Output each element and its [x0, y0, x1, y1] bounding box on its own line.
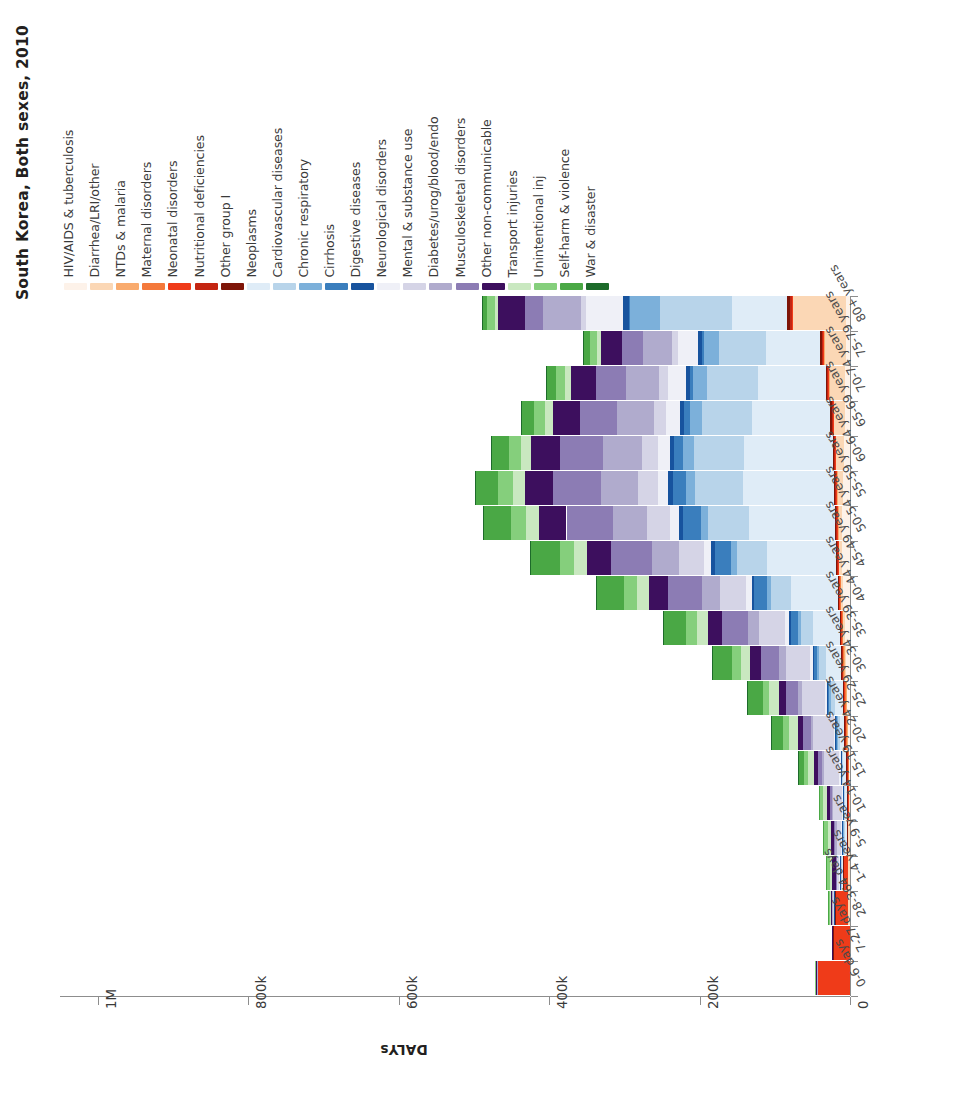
bar-segment [715, 541, 732, 575]
bar-segment [732, 296, 787, 330]
legend-label: War & disaster [585, 187, 598, 278]
bar-segment [786, 681, 798, 715]
bar-segment [690, 366, 693, 400]
legend-swatch [560, 283, 583, 290]
bar-segment [752, 401, 830, 435]
bar-segment [539, 506, 566, 540]
bar-segment [658, 471, 669, 505]
legend-swatch [247, 283, 270, 290]
bar-segment [680, 401, 684, 435]
bar-segment [670, 506, 679, 540]
bar-segment [743, 471, 835, 505]
legend-swatch [90, 283, 113, 290]
legend-label: Maternal disorders [142, 162, 155, 278]
bar-row [60, 751, 850, 785]
bar-segment [698, 331, 702, 365]
bar-segment [786, 646, 810, 680]
value-tick-label: 400k [555, 976, 570, 1009]
bar-segment [810, 646, 813, 680]
bar-segment [690, 401, 702, 435]
bar-segment [798, 751, 803, 785]
bar-segment [678, 331, 698, 365]
value-axis: 1M800k600k400k200k0 [60, 996, 850, 997]
value-tick-label: 800k [254, 976, 269, 1009]
bar-segment [823, 786, 826, 820]
value-tick [248, 997, 249, 1005]
legend-label: Cardiovascular diseases [272, 128, 285, 278]
bar-segment [663, 611, 686, 645]
bar-segment [779, 681, 787, 715]
bar-segment [779, 646, 786, 680]
bar-segment [583, 331, 590, 365]
bar-segment [744, 436, 833, 470]
bar-segment [702, 576, 720, 610]
bar-segment [521, 436, 531, 470]
bar-segment [658, 436, 670, 470]
bar-segment [531, 436, 560, 470]
bar-segment [737, 541, 767, 575]
legend-swatch [377, 283, 400, 290]
bar-segment [525, 471, 554, 505]
bar-segment [626, 366, 660, 400]
legend-swatch [586, 283, 609, 290]
bar-segment [711, 541, 714, 575]
bar-segment [815, 961, 817, 995]
value-tick [399, 997, 400, 1005]
category-axis: 0-6 days7-27 days28-364 days1-4 years5-9… [850, 296, 859, 996]
legend-swatch [429, 283, 452, 290]
bar-segment [801, 611, 813, 645]
bar-segment [702, 401, 752, 435]
bar-segment [817, 646, 819, 680]
bar-segment [766, 331, 820, 365]
legend-label: Other group I [220, 195, 233, 278]
bar-row [60, 366, 850, 400]
legend-swatch [482, 283, 505, 290]
bar-segment [491, 436, 508, 470]
bar-segment [521, 401, 534, 435]
bar-segment [748, 611, 759, 645]
bar-segment [754, 576, 766, 610]
value-tick [549, 997, 550, 1005]
bar-segment [820, 331, 822, 365]
legend-swatch [325, 283, 348, 290]
bar-segment [611, 541, 652, 575]
value-tick-label: 0 [856, 1000, 871, 1009]
bar-segment [686, 366, 690, 400]
bar-segment [679, 541, 705, 575]
bar-segment [769, 681, 778, 715]
bar-segment [498, 471, 512, 505]
bar-segment [482, 296, 487, 330]
bar-segment [580, 401, 617, 435]
bar-segment [686, 471, 695, 505]
bar-segment [597, 576, 624, 610]
bar-segment [803, 716, 811, 750]
chart-title: South Korea, Both sexes, 2010 [14, 0, 44, 300]
legend-label: Neonatal disorders [168, 161, 181, 278]
bar-segment [791, 611, 798, 645]
bar-segment [702, 331, 704, 365]
bar-segment [672, 331, 678, 365]
bar-segment [586, 296, 624, 330]
bar-segment [798, 716, 803, 750]
bar-segment [819, 786, 820, 820]
value-tick-label: 600k [405, 976, 420, 1009]
bar-segment [731, 541, 737, 575]
bar-segment [693, 366, 707, 400]
bar-segment [565, 366, 571, 400]
bar-segment [495, 296, 498, 330]
bar-segment [660, 296, 732, 330]
bar-segment [808, 751, 814, 785]
bar-segment [732, 646, 740, 680]
bar-row [60, 576, 850, 610]
legend-swatch [456, 283, 479, 290]
value-tick [700, 997, 701, 1005]
bar-segment [525, 296, 543, 330]
bar-row [60, 856, 850, 890]
legend-label: Cirrhosis [324, 224, 337, 278]
legend-swatch [403, 283, 426, 290]
value-axis-title: DALYs [380, 1042, 428, 1058]
legend-label: Neoplasms [246, 209, 259, 278]
legend-label: Nutritional deficiencies [194, 135, 207, 278]
bar-row [60, 471, 850, 505]
legend-label: Diarrhea/LRI/other [90, 164, 103, 278]
